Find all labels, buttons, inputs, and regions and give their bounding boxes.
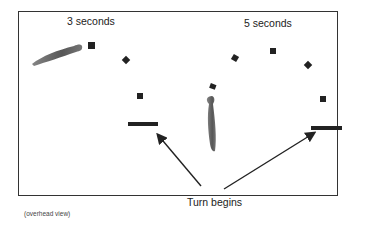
marker-diamond-icon (122, 56, 130, 64)
marker-square-icon (209, 83, 216, 90)
marker-square-icon (137, 93, 143, 99)
marker-diamond-icon (231, 54, 239, 62)
marker-square-icon (320, 96, 326, 102)
animal-left-icon (32, 45, 82, 67)
marker-diamond-icon (304, 61, 312, 69)
arrow-right-icon (224, 133, 314, 189)
turn-start-bar-left (128, 122, 158, 126)
marker-square-icon (270, 48, 276, 54)
arrow-left-icon (158, 135, 201, 186)
diagram-graphics (0, 0, 370, 240)
animal-right-icon (207, 96, 216, 151)
turn-start-bar-right (311, 126, 342, 130)
marker-square-icon (88, 42, 95, 49)
